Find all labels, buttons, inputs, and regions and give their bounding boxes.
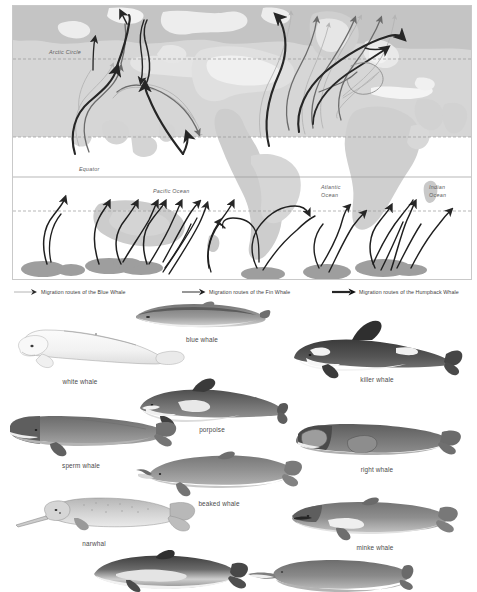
migration-map: Arctic Circle Equator Pacific Ocean Atla… — [12, 5, 472, 280]
map-label-atlantic-ocean: Atlantic Ocean — [321, 184, 341, 200]
plate-label-sperm-whale: sperm whale — [36, 462, 126, 469]
legend-label-humpback-whale: Migration routes of the Humpback Whale — [359, 289, 459, 295]
legend-label-blue-whale: Migration routes of the Blue Whale — [41, 289, 126, 295]
plate-label-killer-whale: killer whale — [334, 376, 420, 383]
legend-label-fin-whale: Migration routes of the Fin Whale — [209, 289, 290, 295]
plate-label-porpoise: porpoise — [174, 426, 250, 433]
legend-item-fin-whale: Migration routes of the Fin Whale — [182, 286, 290, 298]
plate-dolphin-lower-left — [94, 548, 252, 592]
plate-killer-whale: killer whale — [288, 318, 464, 380]
plate-label-white-whale: white whale — [38, 378, 122, 385]
map-label-equator: Equator — [79, 166, 100, 174]
fin-whale-route-swatch — [182, 288, 208, 296]
map-label-indian-ocean: Indian Ocean — [429, 184, 446, 200]
whale-species-plates: blue whale white whale — [0, 300, 477, 591]
minke-whale-illustration — [288, 496, 464, 544]
river-dolphin-illustration — [246, 558, 416, 592]
plate-minke-whale: minke whale — [288, 496, 464, 544]
legend-item-blue-whale: Migration routes of the Blue Whale — [14, 286, 126, 298]
plate-white-whale: white whale — [8, 322, 188, 378]
plate-right-whale: right whale — [292, 420, 464, 468]
map-canvas — [13, 6, 471, 279]
plate-label-minke-whale: minke whale — [332, 544, 418, 551]
humpback-whale-route-swatch — [332, 288, 358, 296]
plate-river-dolphin-lower-right — [246, 558, 416, 592]
plate-narwhal: narwhal — [14, 492, 206, 540]
narwhal-illustration — [14, 492, 206, 540]
blue-whale-route-swatch — [14, 288, 40, 296]
killer-whale-illustration — [288, 318, 464, 380]
map-label-pacific-ocean: Pacific Ocean — [153, 188, 190, 196]
plate-label-right-whale: right whale — [334, 466, 420, 473]
map-legend: Migration routes of the Blue Whale Migra… — [12, 286, 470, 298]
legend-item-humpback-whale: Migration routes of the Humpback Whale — [332, 286, 459, 298]
map-label-arctic-circle: Arctic Circle — [49, 49, 81, 57]
right-whale-illustration — [292, 420, 464, 468]
dolphin-illustration — [94, 548, 252, 592]
plate-label-narwhal: narwhal — [56, 540, 132, 547]
white-whale-illustration — [8, 322, 188, 378]
